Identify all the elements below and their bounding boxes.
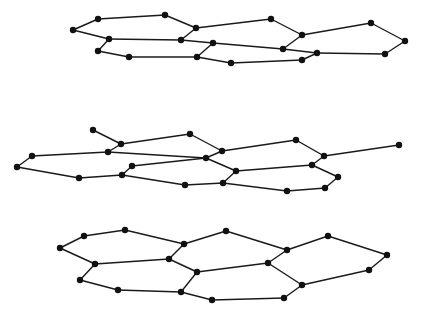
atom-node [382,51,388,57]
bond [213,43,283,49]
atom-node [181,241,187,247]
bond [385,41,405,54]
atom-node [299,32,305,38]
bond [236,165,312,171]
atom-node [284,247,290,253]
atom-node [309,162,315,168]
atom-node [178,37,184,43]
bond [122,175,185,185]
bond [283,35,302,49]
atom-node [14,164,20,170]
bond [268,250,287,263]
bond [328,236,387,255]
atom-node [335,174,341,180]
bond [132,158,206,166]
bond [80,264,95,280]
atom-node [322,185,328,191]
atom-node [95,16,101,22]
bond [231,60,302,63]
bond [197,263,268,272]
bond [184,231,226,244]
bond [60,236,84,248]
bond [60,248,95,264]
atom-node [210,40,216,46]
bond [287,188,325,191]
middle-layer [14,127,402,194]
bond [118,290,181,292]
atom-node [223,228,229,234]
atom-node [220,180,226,186]
bond [79,175,122,178]
atom-node [396,142,402,148]
bond [268,263,302,285]
bond [196,19,271,28]
bond [121,134,190,144]
bond [108,152,206,158]
top-layer [70,12,408,66]
bond [302,270,369,285]
atom-node [119,172,125,178]
bond [165,15,196,28]
atom-node [29,153,35,159]
atom-node [105,149,111,155]
atom-node [325,233,331,239]
atom-node [384,252,390,258]
atom-node [187,131,193,137]
bottom-layer [57,227,390,303]
bond [84,230,125,236]
atom-node [368,20,374,26]
bond [283,49,317,53]
atom-node [182,182,188,188]
bond [169,259,197,272]
atom-node [118,141,124,147]
bond [287,236,328,250]
atom-node [284,188,290,194]
atom-node [293,137,299,143]
atom-node [193,25,199,31]
atom-node [321,153,327,159]
atom-node [194,54,200,60]
atom-node [77,277,83,283]
bond [95,259,169,264]
bond [80,280,118,290]
bond [109,39,181,40]
atom-node [194,269,200,275]
bond [223,183,287,191]
atom-node [95,48,101,54]
atom-node [76,175,82,181]
atom-node [81,233,87,239]
bond [181,292,212,300]
bond [197,57,231,63]
atom-node [299,282,305,288]
bond [369,255,387,270]
atom-node [115,287,121,293]
atom-node [209,297,215,303]
bond [371,23,405,41]
bond [73,30,109,39]
bond [181,272,197,292]
atom-node [219,148,225,154]
atom-node [126,54,132,60]
bond [317,53,385,54]
bond [312,165,338,177]
atom-node [129,163,135,169]
bond [296,140,324,156]
bond [324,145,399,156]
bond [284,285,302,298]
bond [185,183,223,185]
atom-node [162,12,168,18]
bond [181,40,213,43]
bond [125,230,184,244]
bond [98,15,165,19]
bond [222,140,296,151]
atom-node [178,289,184,295]
atom-node [106,36,112,42]
atom-node [281,295,287,301]
atom-node [299,57,305,63]
bond [17,167,79,178]
atom-node [90,127,96,133]
bond [190,134,222,151]
atom-node [314,50,320,56]
layered-network-diagram [0,0,421,314]
atom-node [228,60,234,66]
